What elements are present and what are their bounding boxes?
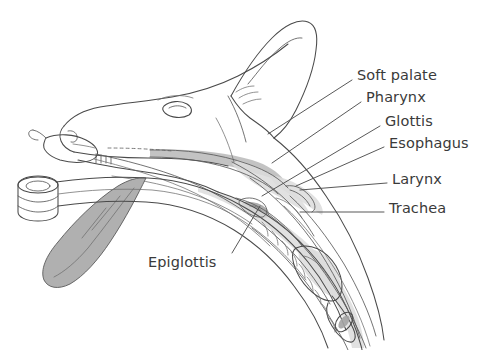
eye-detail	[169, 106, 186, 108]
pilot-balloon	[44, 135, 98, 163]
label-esophagus: Esophagus	[389, 136, 469, 151]
label-soft-palate: Soft palate	[357, 68, 437, 83]
nose-crease	[73, 144, 95, 148]
leader-pharynx	[272, 102, 361, 163]
connector-bore	[26, 181, 50, 191]
ear-inner-edge	[231, 96, 274, 138]
label-epiglottis: Epiglottis	[148, 255, 216, 270]
leader-esophagus	[296, 147, 384, 186]
nose-profile	[60, 126, 74, 152]
label-glottis: Glottis	[385, 114, 433, 129]
eye	[163, 102, 192, 118]
label-pharynx: Pharynx	[366, 90, 426, 105]
ear	[231, 21, 317, 138]
cheek-line	[228, 96, 246, 142]
leader-soft-palate	[268, 80, 352, 134]
leader-glottis	[262, 126, 380, 196]
head-dorsal-profile	[64, 44, 288, 126]
connector-rib-2	[18, 206, 58, 212]
pilot-balloon-valve	[29, 130, 46, 140]
lower-jaw-line	[78, 160, 218, 192]
label-larynx: Larynx	[392, 172, 442, 187]
connector-body	[18, 176, 58, 221]
tube-connector	[18, 176, 58, 221]
ear-fur-tufts	[236, 86, 261, 104]
connector-rib-1	[18, 196, 58, 202]
label-trachea: Trachea	[389, 201, 446, 216]
leader-larynx	[300, 183, 387, 190]
ear-inner-fold	[248, 38, 302, 84]
anatomy-diagram: Soft palate Pharynx Glottis Esophagus La…	[0, 0, 495, 350]
